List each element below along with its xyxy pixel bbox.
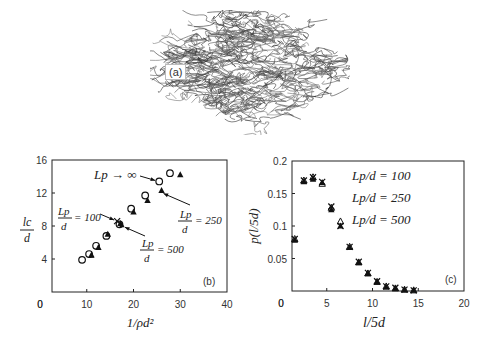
x-tick-label: 20 xyxy=(458,298,470,309)
y-tick-label: 0.1 xyxy=(273,221,287,232)
chart-b: 01020304048121601/ρd²lcdLp → ∞Lpd= 100Lp… xyxy=(0,150,242,344)
svg-text:d: d xyxy=(24,231,31,245)
x-tick-label: 15 xyxy=(413,298,425,309)
y-tick-label: 0.2 xyxy=(273,156,287,167)
annotation: d xyxy=(182,223,188,235)
panel-c-label: (c) xyxy=(445,274,457,285)
annotation: d xyxy=(61,220,67,232)
y-axis-label: lcd xyxy=(20,215,34,245)
y-tick-label: 4 xyxy=(41,254,47,265)
y-tick-label: 8 xyxy=(41,221,47,232)
annotation: Lp xyxy=(179,208,192,220)
y-tick-label: 12 xyxy=(36,188,48,199)
x-axis-label: 1/ρd² xyxy=(127,315,155,330)
y-tick-label: 16 xyxy=(36,155,48,166)
plot-frame-b xyxy=(52,160,227,292)
svg-text:lc: lc xyxy=(23,215,32,229)
x-tick-label: 5 xyxy=(324,298,330,309)
x-axis-label: l/5d xyxy=(363,315,386,330)
x-tick-label: 10 xyxy=(367,298,379,309)
x-tick-label: 30 xyxy=(175,299,187,310)
y-tick-label: 0.05 xyxy=(268,254,288,265)
chart-c: 051015200.050.10.150.20l/5dp(l/5d)Lp/d =… xyxy=(242,150,484,344)
annotation: = 100 xyxy=(74,211,101,223)
legend-entry: Lp/d = 500 xyxy=(351,212,411,227)
y-axis-label: p(l/5d) xyxy=(246,208,261,244)
annotation: Lp xyxy=(57,205,70,217)
panel-b-label: (b) xyxy=(203,276,215,287)
x-tick-label: 40 xyxy=(221,299,233,310)
svg-text:0: 0 xyxy=(278,298,284,309)
annotation: Lp xyxy=(141,237,154,249)
annotation: = 500 xyxy=(157,243,184,255)
x-tick-label: 20 xyxy=(128,299,140,310)
svg-text:0: 0 xyxy=(37,299,43,310)
y-tick-label: 0.15 xyxy=(268,189,288,200)
legend-entry: Lp/d = 250 xyxy=(351,190,411,205)
legend-entry: Lp/d = 100 xyxy=(351,168,411,183)
annotation: = 250 xyxy=(195,214,222,226)
annotation: d xyxy=(144,252,150,264)
annotation: Lp → ∞ xyxy=(93,167,137,182)
x-tick-label: 10 xyxy=(81,299,93,310)
panel-a-label: (a) xyxy=(165,64,186,80)
